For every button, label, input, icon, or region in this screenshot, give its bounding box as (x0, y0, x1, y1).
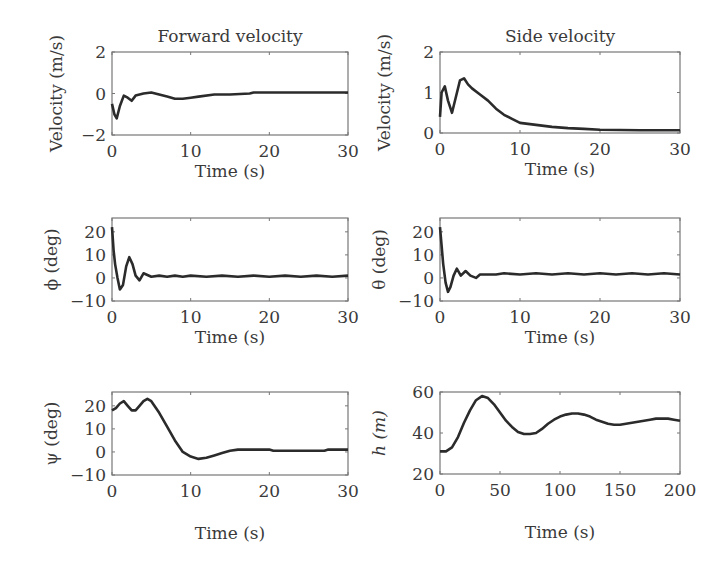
panel-psi: 010203020100−10Time (s)ψ (deg) (41, 392, 359, 543)
y-tick-label: 40 (412, 423, 434, 443)
y-tick-label: 0 (95, 84, 106, 104)
plot-area (440, 218, 680, 301)
panel-title: Side velocity (505, 26, 616, 46)
x-tick-label: 20 (589, 307, 611, 327)
y-tick-label: −2 (81, 125, 106, 145)
panel-title: Forward velocity (157, 26, 302, 46)
y-axis-label: Velocity (m/s) (374, 34, 394, 152)
y-axis-label: h (m) (369, 410, 389, 456)
x-tick-label: 20 (259, 141, 281, 161)
y-axis-label: ψ (deg) (41, 402, 61, 466)
y-tick-label: 20 (412, 464, 434, 484)
y-tick-label: 10 (84, 419, 106, 439)
x-tick-label: 100 (544, 480, 576, 500)
x-axis-label: Time (s) (195, 161, 265, 181)
x-tick-label: 0 (435, 480, 446, 500)
figure-canvas: 010203020−2Forward velocityTime (s)Veloc… (0, 0, 722, 563)
plot-area (112, 392, 348, 475)
y-tick-label: −10 (70, 465, 106, 485)
y-axis-label: ϕ (deg) (41, 228, 61, 290)
y-tick-label: 20 (412, 222, 434, 242)
panel-height: 050100150200604020Time (s)h (m) (369, 382, 696, 542)
panel-side-velocity: 0102030210Side velocityTime (s)Velocity … (374, 26, 691, 179)
plot-area (440, 392, 680, 474)
x-tick-label: 20 (259, 307, 281, 327)
x-tick-label: 30 (669, 139, 691, 159)
y-tick-label: 1 (423, 83, 434, 103)
x-tick-label: 150 (604, 480, 636, 500)
y-tick-label: 60 (412, 382, 434, 402)
y-tick-label: 0 (423, 123, 434, 143)
y-tick-label: 20 (84, 222, 106, 242)
y-tick-label: 20 (84, 396, 106, 416)
x-tick-label: 0 (435, 307, 446, 327)
x-tick-label: 30 (337, 307, 359, 327)
y-tick-label: 10 (412, 245, 434, 265)
x-tick-label: 30 (669, 307, 691, 327)
y-tick-label: 0 (95, 442, 106, 462)
x-tick-label: 0 (107, 307, 118, 327)
x-tick-label: 10 (180, 307, 202, 327)
x-tick-label: 10 (509, 139, 531, 159)
x-tick-label: 0 (435, 139, 446, 159)
x-axis-label: Time (s) (525, 327, 595, 347)
x-tick-label: 10 (509, 307, 531, 327)
x-tick-label: 20 (589, 139, 611, 159)
y-axis-label: θ (deg) (369, 229, 389, 290)
panel-phi: 010203020100−10Time (s)ϕ (deg) (41, 218, 359, 347)
x-tick-label: 10 (180, 481, 202, 501)
x-axis-label: Time (s) (195, 327, 265, 347)
x-tick-label: 30 (337, 481, 359, 501)
x-axis-label: Time (s) (525, 159, 595, 179)
y-tick-label: 10 (84, 245, 106, 265)
x-tick-label: 0 (107, 141, 118, 161)
panel-theta: 010203020100−10Time (s)θ (deg) (369, 218, 691, 347)
x-axis-label: Time (s) (195, 523, 265, 543)
y-tick-label: −10 (70, 291, 106, 311)
x-tick-label: 200 (664, 480, 696, 500)
y-tick-label: 0 (95, 268, 106, 288)
x-tick-label: 50 (489, 480, 511, 500)
x-tick-label: 30 (337, 141, 359, 161)
y-tick-label: 2 (95, 42, 106, 62)
plot-area (112, 218, 348, 301)
panel-forward-velocity: 010203020−2Forward velocityTime (s)Veloc… (46, 26, 359, 181)
x-tick-label: 0 (107, 481, 118, 501)
y-tick-label: 2 (423, 42, 434, 62)
y-tick-label: −10 (398, 291, 434, 311)
x-tick-label: 10 (180, 141, 202, 161)
y-axis-label: Velocity (m/s) (46, 35, 66, 153)
x-tick-label: 20 (259, 481, 281, 501)
x-axis-label: Time (s) (525, 522, 595, 542)
y-tick-label: 0 (423, 268, 434, 288)
